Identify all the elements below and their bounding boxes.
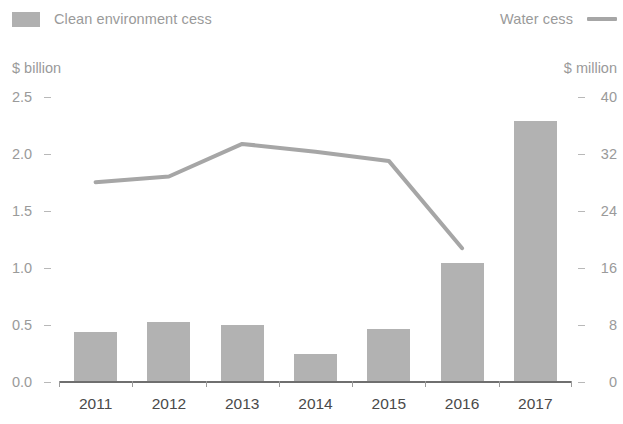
left-tick-mark-0-5 <box>44 325 51 326</box>
x-tick-mark-3 <box>279 381 280 387</box>
right-tick-0: 0 <box>609 375 617 390</box>
left-tick-mark-1-0 <box>44 268 51 269</box>
x-tick-mark-2 <box>206 381 207 387</box>
bar-swatch-icon <box>12 12 40 27</box>
legend-item-water-cess: Water cess <box>500 11 617 27</box>
x-axis-label-2014: 2014 <box>298 395 332 413</box>
plot-area <box>59 97 572 381</box>
left-tick-0-5: 0.5 <box>12 318 32 333</box>
left-axis-unit-label: $ billion <box>12 60 61 76</box>
x-tick-mark-4 <box>352 381 353 387</box>
x-tick-mark-0 <box>59 381 60 387</box>
x-axis-label-2011: 2011 <box>79 395 112 413</box>
x-axis-label-2015: 2015 <box>372 395 406 413</box>
x-tick-mark-7 <box>571 381 572 387</box>
chart-container: Clean environment cess Water cess $ bill… <box>0 0 623 424</box>
x-axis-label-2016: 2016 <box>445 395 479 413</box>
legend-item-clean-environment-cess: Clean environment cess <box>12 11 212 27</box>
x-axis-label-2012: 2012 <box>152 395 186 413</box>
left-tick-mark-2-5 <box>44 97 51 98</box>
right-tick-16: 16 <box>601 261 617 276</box>
right-tick-mark-8 <box>578 325 585 326</box>
left-tick-1-5: 1.5 <box>12 204 32 219</box>
x-tick-mark-5 <box>425 381 426 387</box>
legend-label-clean-environment-cess: Clean environment cess <box>54 11 212 27</box>
right-tick-24: 24 <box>601 204 617 219</box>
left-tick-2-0: 2.0 <box>12 147 32 162</box>
left-tick-mark-0-0 <box>44 382 51 383</box>
chart-legend: Clean environment cess Water cess <box>0 0 623 40</box>
x-axis-baseline <box>59 381 572 383</box>
left-tick-mark-1-5 <box>44 211 51 212</box>
right-tick-32: 32 <box>601 147 617 162</box>
right-tick-mark-16 <box>578 268 585 269</box>
legend-label-water-cess: Water cess <box>500 11 573 27</box>
right-tick-mark-24 <box>578 211 585 212</box>
right-tick-40: 40 <box>601 90 617 105</box>
right-tick-mark-0 <box>578 382 585 383</box>
x-tick-mark-6 <box>499 381 500 387</box>
right-tick-mark-32 <box>578 154 585 155</box>
x-axis-label-2017: 2017 <box>518 395 552 413</box>
left-tick-0-0: 0.0 <box>12 375 32 390</box>
x-tick-mark-1 <box>132 381 133 387</box>
line-swatch-icon <box>587 17 617 21</box>
left-tick-mark-2-0 <box>44 154 51 155</box>
right-tick-8: 8 <box>609 318 617 333</box>
right-axis-unit-label: $ million <box>564 60 617 76</box>
line-series-water-cess <box>59 97 572 381</box>
left-tick-2-5: 2.5 <box>12 90 32 105</box>
left-tick-1-0: 1.0 <box>12 261 32 276</box>
right-tick-mark-40 <box>578 97 585 98</box>
x-axis-label-2013: 2013 <box>225 395 259 413</box>
